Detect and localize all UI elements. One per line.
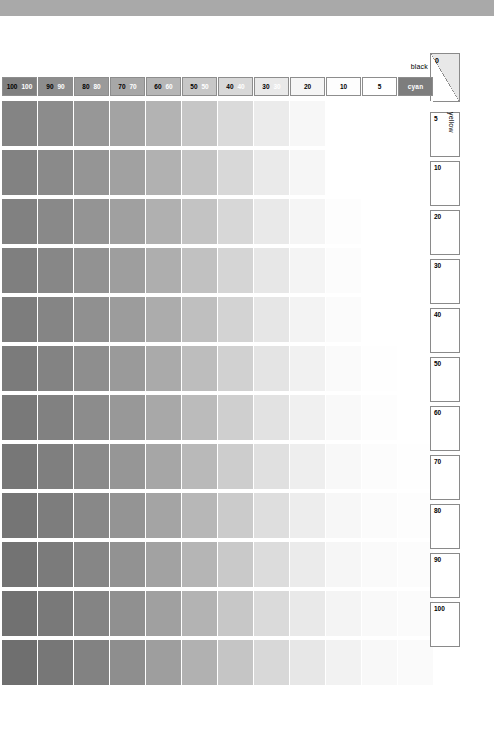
color-swatch (182, 101, 217, 146)
side-cell-label: 30 (434, 262, 441, 269)
color-swatch (398, 297, 433, 342)
color-swatch (182, 493, 217, 538)
color-swatch (218, 444, 253, 489)
header-value-light: 40 (238, 83, 245, 90)
color-swatch (218, 101, 253, 146)
color-swatch (254, 444, 289, 489)
side-cell-5: 5 (430, 112, 460, 157)
color-swatch (38, 150, 73, 195)
color-swatch (74, 591, 109, 636)
color-swatch (398, 199, 433, 244)
color-swatch (290, 297, 325, 342)
header-cell-70: 7070 (110, 77, 145, 96)
color-swatch (182, 591, 217, 636)
color-swatch (218, 297, 253, 342)
color-swatch (38, 542, 73, 587)
header-value-dark: 5 (378, 83, 382, 90)
color-swatch (362, 444, 397, 489)
color-swatch (110, 591, 145, 636)
color-swatch (38, 248, 73, 293)
color-swatch (110, 297, 145, 342)
color-swatch (218, 248, 253, 293)
color-swatch (2, 199, 37, 244)
color-swatch (398, 444, 433, 489)
header-cell-20: 20 (290, 77, 325, 96)
header-value-light: 100 (22, 83, 33, 90)
color-swatch (74, 199, 109, 244)
header-cell-100: 100100 (2, 77, 37, 96)
color-swatch (218, 591, 253, 636)
header-value-light: 70 (130, 83, 137, 90)
color-swatch (182, 346, 217, 391)
color-swatch (326, 395, 361, 440)
color-swatch (38, 640, 73, 685)
side-cell-100: 100 (430, 602, 460, 647)
color-swatch (290, 395, 325, 440)
header-value-dark: 80 (82, 83, 89, 90)
side-cell-70: 70 (430, 455, 460, 500)
color-swatch (146, 297, 181, 342)
color-swatch (110, 444, 145, 489)
side-cell-label: 70 (434, 458, 441, 465)
side-cell-label: 60 (434, 409, 441, 416)
header-value-dark: 20 (304, 83, 311, 90)
black-axis-label: black (398, 63, 428, 70)
color-swatch (254, 493, 289, 538)
color-swatch (74, 297, 109, 342)
color-swatch (290, 101, 325, 146)
color-swatch (74, 248, 109, 293)
color-swatch (362, 150, 397, 195)
color-swatch (254, 150, 289, 195)
color-swatch (110, 199, 145, 244)
color-swatch (2, 150, 37, 195)
color-swatch (38, 493, 73, 538)
color-swatch (398, 248, 433, 293)
header-value-dark: 40 (226, 83, 233, 90)
header-cell-60: 6060 (146, 77, 181, 96)
side-cell-60: 60 (430, 406, 460, 451)
color-swatch (38, 199, 73, 244)
color-swatch (146, 150, 181, 195)
header-value-dark: 10 (340, 83, 347, 90)
color-swatch (2, 346, 37, 391)
header-value-dark: 90 (46, 83, 53, 90)
color-swatch (326, 150, 361, 195)
side-cell-90: 90 (430, 553, 460, 598)
yellow-axis-label: yellow (448, 112, 455, 133)
side-cell-label: 80 (434, 507, 441, 514)
color-swatch (146, 248, 181, 293)
color-swatch (290, 199, 325, 244)
color-swatch (290, 493, 325, 538)
color-swatch (398, 395, 433, 440)
color-swatch (2, 542, 37, 587)
color-swatch (398, 542, 433, 587)
color-swatch (218, 346, 253, 391)
header-cell-30: 3030 (254, 77, 289, 96)
color-swatch (146, 542, 181, 587)
header-cell-cyan: cyan (398, 77, 433, 96)
color-swatch (182, 444, 217, 489)
side-cell-label: 50 (434, 360, 441, 367)
color-swatch (290, 150, 325, 195)
header-value-dark: cyan (408, 83, 424, 90)
color-swatch (362, 493, 397, 538)
color-swatch (362, 640, 397, 685)
color-swatch (2, 591, 37, 636)
color-swatch (362, 101, 397, 146)
color-swatch (110, 640, 145, 685)
header-value-dark: 60 (154, 83, 161, 90)
color-swatch (326, 444, 361, 489)
color-swatch (74, 493, 109, 538)
color-swatch (362, 248, 397, 293)
color-swatch (110, 150, 145, 195)
color-swatch (362, 297, 397, 342)
color-swatch (218, 493, 253, 538)
side-cell-10: 10 (430, 161, 460, 206)
color-swatch (182, 542, 217, 587)
color-swatch (182, 150, 217, 195)
color-swatch (290, 346, 325, 391)
color-swatch (326, 248, 361, 293)
side-cell-label: 10 (434, 164, 441, 171)
side-cell-20: 20 (430, 210, 460, 255)
color-swatch (2, 297, 37, 342)
